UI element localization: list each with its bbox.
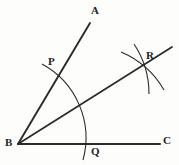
label-point-p: P	[48, 56, 55, 67]
geometry-diagram: A B C P Q R	[0, 0, 179, 165]
label-point-b: B	[5, 137, 12, 148]
ray-bisector	[18, 47, 172, 144]
label-point-r: R	[146, 50, 154, 61]
ray-ba	[18, 23, 90, 144]
label-point-c: C	[163, 135, 171, 146]
label-point-q: Q	[91, 146, 100, 157]
label-point-a: A	[91, 5, 99, 16]
arc-from-point-p	[121, 52, 164, 90]
geometry-canvas	[0, 0, 179, 165]
arc-from-vertex-b	[42, 64, 86, 160]
